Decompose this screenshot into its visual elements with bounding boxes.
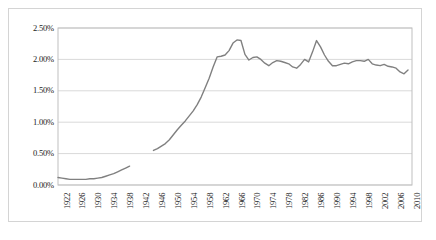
plot-area-border [58,28,412,185]
y-tick-label: 2.50% [14,23,54,33]
x-tick-label: 1978 [284,193,294,209]
x-tick-label: 1970 [252,193,262,209]
x-tick-label: 1942 [141,193,151,209]
x-tick-label: 1958 [205,193,215,209]
x-tick-label: 1926 [77,193,87,209]
data-line-series-2-postwar [153,40,408,151]
x-tick-label: 1962 [221,193,231,209]
x-tick-label: 1930 [93,193,103,209]
x-tick-label: 1982 [300,193,310,209]
x-tick-label: 1954 [189,193,199,209]
x-tick-label: 1990 [332,193,342,209]
x-tick-label: 2010 [412,193,422,209]
x-tick-label: 1986 [316,193,326,209]
x-tick-label: 1994 [348,193,358,209]
x-tick-label: 1950 [173,193,183,209]
x-tick-label: 1922 [62,193,72,209]
x-tick-label: 1966 [237,193,247,209]
y-tick-label: 1.50% [14,85,54,95]
x-tick-label: 1946 [157,193,167,209]
y-tick-label: 2.00% [14,54,54,64]
x-tick-label: 1938 [125,193,135,209]
y-tick-label: 1.00% [14,117,54,127]
x-tick-label: 2006 [396,193,406,209]
gridlines-group [58,28,412,185]
x-tick-label: 1934 [109,193,119,209]
x-tick-label: 1974 [268,193,278,209]
y-tick-label: 0.50% [14,148,54,158]
x-tick-label: 1998 [364,193,374,209]
data-line-series-1-prewar [58,166,130,179]
y-tick-label: 0.00% [14,180,54,190]
x-tick-label: 2002 [380,193,390,209]
data-series-group [58,40,408,179]
